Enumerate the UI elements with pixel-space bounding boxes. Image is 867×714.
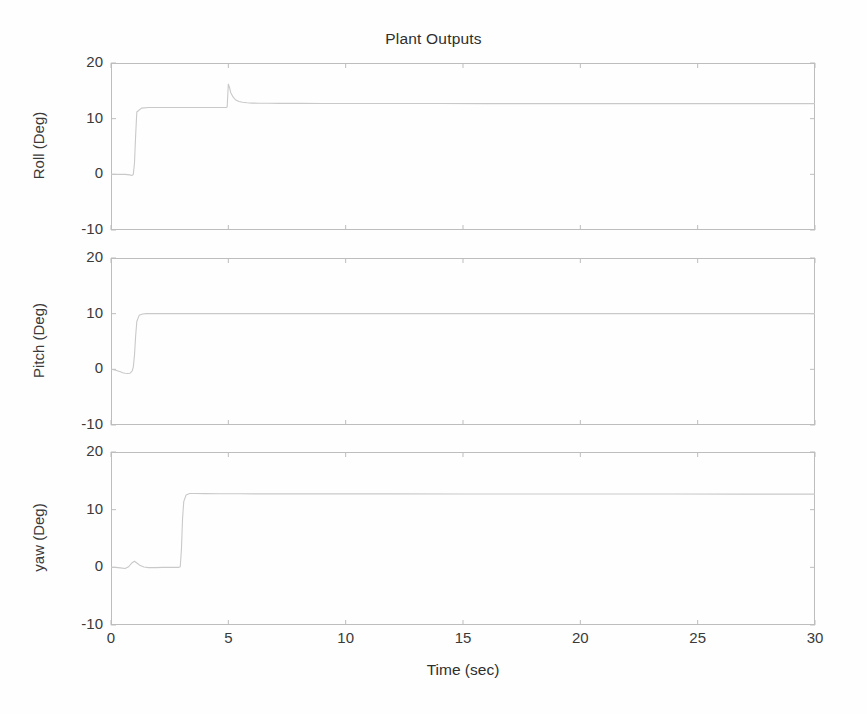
subplot-roll bbox=[111, 63, 815, 230]
x-tick-label: 5 bbox=[198, 629, 258, 646]
y-axis-label-yaw: yaw (Deg) bbox=[30, 451, 47, 624]
matlab-figure: Plant Outputs Time (sec) -1001020Roll (D… bbox=[0, 0, 867, 714]
x-axis-label: Time (sec) bbox=[111, 661, 815, 679]
y-axis-label-roll: Roll (Deg) bbox=[30, 62, 47, 229]
x-tick-label: 25 bbox=[668, 629, 728, 646]
x-tick-label: 30 bbox=[785, 629, 845, 646]
y-tick-label: 20 bbox=[57, 248, 103, 265]
y-tick-label: -10 bbox=[57, 220, 103, 237]
axes-frame bbox=[112, 453, 815, 625]
y-axis-label-pitch: Pitch (Deg) bbox=[30, 257, 47, 424]
axes-frame bbox=[112, 64, 815, 230]
plot-area-yaw bbox=[111, 452, 815, 625]
y-tick-label: 10 bbox=[57, 500, 103, 517]
axes-frame bbox=[112, 259, 815, 425]
x-tick-label: 15 bbox=[433, 629, 493, 646]
x-tick-label: 0 bbox=[81, 629, 141, 646]
plot-area-roll bbox=[111, 63, 815, 230]
y-tick-label: -10 bbox=[57, 415, 103, 432]
figure-title: Plant Outputs bbox=[0, 30, 867, 48]
data-line-yaw bbox=[111, 494, 815, 569]
data-line-pitch bbox=[111, 314, 815, 374]
y-tick-label: 20 bbox=[57, 442, 103, 459]
y-tick-label: 0 bbox=[57, 359, 103, 376]
y-tick-label: 0 bbox=[57, 164, 103, 181]
subplot-yaw bbox=[111, 452, 815, 625]
plot-area-pitch bbox=[111, 258, 815, 425]
x-tick-label: 10 bbox=[316, 629, 376, 646]
y-tick-label: 20 bbox=[57, 53, 103, 70]
subplot-pitch bbox=[111, 258, 815, 425]
data-line-roll bbox=[111, 84, 815, 175]
x-tick-label: 20 bbox=[550, 629, 610, 646]
y-tick-label: 10 bbox=[57, 304, 103, 321]
y-tick-label: 10 bbox=[57, 109, 103, 126]
y-tick-label: 0 bbox=[57, 557, 103, 574]
